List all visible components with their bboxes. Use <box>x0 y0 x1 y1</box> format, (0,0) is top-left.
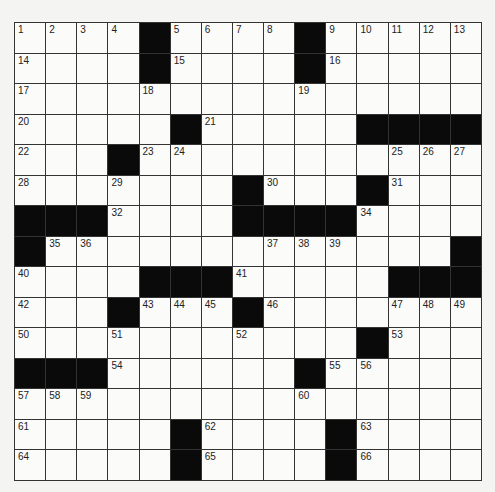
grid-cell[interactable] <box>202 54 232 84</box>
grid-cell[interactable]: 63 <box>357 420 387 450</box>
grid-cell[interactable] <box>326 176 356 206</box>
grid-cell[interactable] <box>357 389 387 419</box>
grid-cell[interactable] <box>202 237 232 267</box>
grid-cell[interactable] <box>202 145 232 175</box>
grid-cell[interactable] <box>233 420 263 450</box>
grid-cell[interactable]: 56 <box>357 359 387 389</box>
grid-cell[interactable] <box>357 298 387 328</box>
grid-cell[interactable] <box>108 84 138 114</box>
grid-cell[interactable] <box>46 54 76 84</box>
grid-cell[interactable]: 52 <box>233 328 263 358</box>
grid-cell[interactable] <box>420 176 450 206</box>
grid-cell[interactable] <box>389 54 419 84</box>
grid-cell[interactable] <box>451 176 481 206</box>
grid-cell[interactable] <box>420 450 450 480</box>
grid-cell[interactable]: 58 <box>46 389 76 419</box>
grid-cell[interactable] <box>389 84 419 114</box>
grid-cell[interactable]: 22 <box>15 145 45 175</box>
grid-cell[interactable]: 57 <box>15 389 45 419</box>
grid-cell[interactable] <box>77 176 107 206</box>
grid-cell[interactable] <box>140 359 170 389</box>
grid-cell[interactable]: 6 <box>202 23 232 53</box>
grid-cell[interactable] <box>295 115 325 145</box>
grid-cell[interactable]: 38 <box>295 237 325 267</box>
grid-cell[interactable]: 12 <box>420 23 450 53</box>
grid-cell[interactable] <box>171 328 201 358</box>
grid-cell[interactable] <box>264 115 294 145</box>
grid-cell[interactable]: 11 <box>389 23 419 53</box>
grid-cell[interactable] <box>264 328 294 358</box>
grid-cell[interactable] <box>295 450 325 480</box>
grid-cell[interactable] <box>202 176 232 206</box>
grid-cell[interactable]: 21 <box>202 115 232 145</box>
grid-cell[interactable] <box>326 115 356 145</box>
grid-cell[interactable] <box>233 450 263 480</box>
grid-cell[interactable] <box>326 145 356 175</box>
grid-cell[interactable]: 1 <box>15 23 45 53</box>
grid-cell[interactable] <box>77 450 107 480</box>
grid-cell[interactable] <box>140 176 170 206</box>
grid-cell[interactable]: 47 <box>389 298 419 328</box>
grid-cell[interactable] <box>46 145 76 175</box>
grid-cell[interactable] <box>171 176 201 206</box>
grid-cell[interactable] <box>264 145 294 175</box>
grid-cell[interactable] <box>46 115 76 145</box>
grid-cell[interactable]: 28 <box>15 176 45 206</box>
grid-cell[interactable] <box>451 328 481 358</box>
grid-cell[interactable]: 34 <box>357 206 387 236</box>
grid-cell[interactable] <box>326 328 356 358</box>
grid-cell[interactable]: 55 <box>326 359 356 389</box>
grid-cell[interactable] <box>264 450 294 480</box>
grid-cell[interactable]: 43 <box>140 298 170 328</box>
grid-cell[interactable]: 44 <box>171 298 201 328</box>
grid-cell[interactable] <box>451 420 481 450</box>
grid-cell[interactable]: 51 <box>108 328 138 358</box>
grid-cell[interactable] <box>295 176 325 206</box>
grid-cell[interactable] <box>420 328 450 358</box>
grid-cell[interactable]: 45 <box>202 298 232 328</box>
grid-cell[interactable] <box>77 267 107 297</box>
grid-cell[interactable] <box>140 450 170 480</box>
grid-cell[interactable] <box>77 145 107 175</box>
grid-cell[interactable] <box>420 84 450 114</box>
grid-cell[interactable]: 42 <box>15 298 45 328</box>
grid-cell[interactable] <box>140 237 170 267</box>
grid-cell[interactable] <box>77 54 107 84</box>
grid-cell[interactable] <box>77 115 107 145</box>
grid-cell[interactable]: 66 <box>357 450 387 480</box>
grid-cell[interactable] <box>451 84 481 114</box>
grid-cell[interactable] <box>357 84 387 114</box>
grid-cell[interactable] <box>140 389 170 419</box>
grid-cell[interactable] <box>108 420 138 450</box>
grid-cell[interactable] <box>171 389 201 419</box>
grid-cell[interactable]: 29 <box>108 176 138 206</box>
grid-cell[interactable] <box>389 359 419 389</box>
grid-cell[interactable] <box>171 206 201 236</box>
grid-cell[interactable]: 17 <box>15 84 45 114</box>
grid-cell[interactable] <box>202 84 232 114</box>
grid-cell[interactable]: 10 <box>357 23 387 53</box>
grid-cell[interactable]: 24 <box>171 145 201 175</box>
grid-cell[interactable] <box>108 267 138 297</box>
grid-cell[interactable]: 64 <box>15 450 45 480</box>
grid-cell[interactable] <box>46 84 76 114</box>
grid-cell[interactable] <box>264 267 294 297</box>
grid-cell[interactable] <box>264 359 294 389</box>
grid-cell[interactable] <box>233 389 263 419</box>
grid-cell[interactable] <box>264 420 294 450</box>
grid-cell[interactable] <box>420 359 450 389</box>
grid-cell[interactable] <box>295 298 325 328</box>
grid-cell[interactable]: 25 <box>389 145 419 175</box>
grid-cell[interactable]: 19 <box>295 84 325 114</box>
grid-cell[interactable]: 46 <box>264 298 294 328</box>
grid-cell[interactable]: 62 <box>202 420 232 450</box>
grid-cell[interactable] <box>77 298 107 328</box>
grid-cell[interactable]: 60 <box>295 389 325 419</box>
grid-cell[interactable] <box>77 420 107 450</box>
grid-cell[interactable] <box>326 267 356 297</box>
grid-cell[interactable]: 15 <box>171 54 201 84</box>
grid-cell[interactable]: 3 <box>77 23 107 53</box>
grid-cell[interactable] <box>233 359 263 389</box>
grid-cell[interactable]: 50 <box>15 328 45 358</box>
grid-cell[interactable]: 37 <box>264 237 294 267</box>
